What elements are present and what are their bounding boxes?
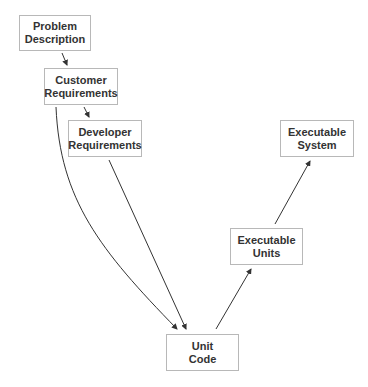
edge-customer-to-developer bbox=[84, 107, 89, 117]
node-label-line2: Code bbox=[189, 353, 217, 366]
node-label-line1: Problem bbox=[33, 20, 77, 33]
node-label-line1: Developer bbox=[78, 126, 131, 139]
edge-unitcode-to-units bbox=[216, 269, 251, 329]
node-unit-code: Unit Code bbox=[166, 334, 239, 371]
node-developer-requirements: Developer Requirements bbox=[68, 120, 142, 157]
node-executable-system: Executable System bbox=[280, 120, 354, 157]
edge-problem-to-customer bbox=[62, 53, 67, 65]
edge-units-to-system bbox=[275, 161, 310, 224]
node-label-line1: Unit bbox=[192, 340, 213, 353]
diagram-edges bbox=[0, 0, 368, 387]
node-executable-units: Executable Units bbox=[230, 228, 303, 265]
node-label-line2: Requirements bbox=[68, 139, 141, 152]
edge-developer-to-unitcode bbox=[109, 160, 186, 329]
node-label-line2: Units bbox=[253, 247, 281, 260]
node-problem-description: Problem Description bbox=[19, 15, 91, 51]
node-label-line2: System bbox=[297, 139, 336, 152]
node-customer-requirements: Customer Requirements bbox=[44, 68, 118, 105]
node-label-line1: Executable bbox=[288, 126, 346, 139]
node-label-line2: Requirements bbox=[44, 87, 117, 100]
node-label-line1: Customer bbox=[55, 74, 106, 87]
node-label-line1: Executable bbox=[237, 234, 295, 247]
node-label-line2: Description bbox=[25, 33, 86, 46]
